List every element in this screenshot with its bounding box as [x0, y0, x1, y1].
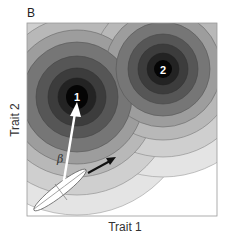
contour-layers — [0, 0, 227, 216]
peak-1-label: 1 — [74, 91, 80, 103]
beta-label: β — [56, 153, 63, 166]
peak-2-label: 2 — [160, 64, 166, 76]
adaptive-landscape-plot: 1 2 β — [0, 0, 227, 241]
